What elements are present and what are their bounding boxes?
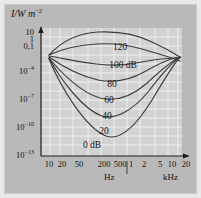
x-tick-2khz: 2 [138,160,150,169]
x-axis-arrowhead [183,153,190,158]
x-tick-50hz: 50 [70,160,88,169]
y-tick-1e-7: 10−7 [4,92,34,103]
figure-container: I/W m−2 [0,0,201,198]
y-tick-1e-13: 10−13 [2,148,34,159]
x-tick-20hz: 20 [53,160,71,169]
curve-label-100db: 100 dB [100,60,146,70]
curve-label-20: 20 [89,126,119,136]
curve-label-120: 120 [105,42,135,52]
y-tick-0-1: 0,1 [6,42,34,50]
curve-label-40: 40 [92,111,122,121]
curve-label-0db: 0 dB [72,140,112,150]
x-tick-20khz: 20 [178,160,194,169]
x-unit-khz: kHz [163,172,178,182]
x-tick-1khz: 1 [125,160,137,169]
x-unit-hz: Hz [104,172,115,182]
y-tick-1e-10: 10−10 [2,120,34,131]
y-tick-1e-4: 10−4 [4,64,34,75]
curve-label-60: 60 [94,95,124,105]
curve-label-80: 80 [97,79,127,89]
